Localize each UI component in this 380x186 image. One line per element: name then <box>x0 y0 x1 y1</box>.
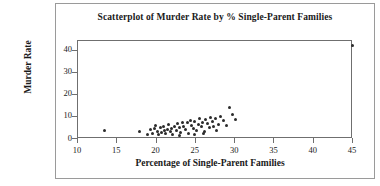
y-axis-tick-mark <box>72 72 77 73</box>
x-axis-tick-label: 35 <box>261 145 285 155</box>
x-axis-tick-label: 30 <box>222 145 246 155</box>
y-axis-title: Murder Rate <box>23 17 33 117</box>
scatter-point <box>193 120 196 123</box>
x-axis-tick-label: 45 <box>340 145 364 155</box>
y-axis-tick-label: 30 <box>64 67 73 76</box>
scatter-point <box>351 44 354 47</box>
scatter-point <box>164 132 167 135</box>
chart-title: Scatterplot of Murder Rate by % Single-P… <box>70 12 360 24</box>
scatter-point <box>184 128 187 131</box>
x-axis-tick-label: 25 <box>183 145 207 155</box>
x-axis-tick-mark <box>116 138 117 143</box>
scatter-point <box>162 125 165 128</box>
y-axis-tick-mark <box>72 50 77 51</box>
x-axis-title: Percentage of Single-Parent Families <box>60 158 360 168</box>
scatter-point <box>171 133 174 136</box>
scatter-point <box>225 124 228 127</box>
scatter-point <box>153 127 156 130</box>
scatter-point <box>231 113 234 116</box>
scatter-point <box>138 130 141 133</box>
scatter-point <box>202 132 205 135</box>
x-axis-tick-label: 15 <box>104 145 128 155</box>
scatter-point <box>208 126 211 129</box>
x-axis-tick-label: 20 <box>144 145 168 155</box>
x-axis-tick-mark <box>234 138 235 143</box>
scatter-point <box>215 129 218 132</box>
scatter-point <box>206 122 209 125</box>
x-axis-tick-mark <box>195 138 196 143</box>
scatter-point <box>186 121 189 124</box>
x-axis-tick-mark <box>352 138 353 143</box>
x-axis-tick-mark <box>273 138 274 143</box>
scatter-point <box>151 132 154 135</box>
scatter-point <box>193 133 196 136</box>
y-axis-tick-label: 40 <box>64 45 73 54</box>
scatter-point <box>211 120 214 123</box>
scatter-point <box>214 117 217 120</box>
scatter-point <box>167 123 170 126</box>
y-axis-tick-mark <box>72 94 77 95</box>
scatter-point <box>173 125 176 128</box>
scatter-point <box>178 134 181 137</box>
scatter-point <box>195 129 198 132</box>
x-axis-tick-label: 10 <box>65 145 89 155</box>
scatter-point <box>103 129 106 132</box>
scatter-point <box>178 126 181 129</box>
scatter-point <box>217 123 220 126</box>
scatter-point <box>222 119 225 122</box>
scatter-point <box>176 122 179 125</box>
x-axis-tick-mark <box>77 138 78 143</box>
scatter-point <box>146 133 149 136</box>
scatter-point <box>198 117 201 120</box>
scatter-point <box>204 118 207 121</box>
scatter-point <box>149 128 152 131</box>
x-axis-tick-mark <box>156 138 157 143</box>
scatter-point <box>219 115 222 118</box>
y-axis-tick-label: 10 <box>64 111 73 120</box>
scatter-point <box>189 119 192 122</box>
y-axis-tick-mark <box>72 116 77 117</box>
scatterplot-figure: Scatterplot of Murder Rate by % Single-P… <box>0 0 380 186</box>
plot-area <box>77 40 352 138</box>
scatter-point <box>200 125 203 128</box>
scatter-point <box>212 125 215 128</box>
scatter-point <box>228 106 231 109</box>
x-axis-tick-mark <box>313 138 314 143</box>
y-axis-tick-label: 20 <box>64 89 73 98</box>
x-axis-tick-label: 40 <box>301 145 325 155</box>
scatter-point <box>154 124 157 127</box>
scatter-point <box>234 118 237 121</box>
scatter-point <box>201 121 204 124</box>
scatter-point <box>209 116 212 119</box>
scatter-point <box>175 129 178 132</box>
scatter-point <box>187 132 190 135</box>
scatter-point <box>181 121 184 124</box>
